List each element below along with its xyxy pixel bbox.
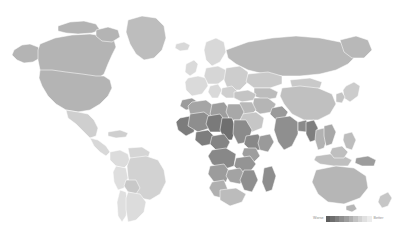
region-australia[interactable]: [312, 166, 368, 204]
region-india[interactable]: [274, 116, 298, 150]
region-papua-new-guinea[interactable]: [355, 156, 376, 166]
region-china[interactable]: [280, 86, 336, 120]
legend-swatch-9: [367, 216, 372, 222]
world-choropleth-figure: Worse Better: [0, 0, 410, 237]
region-new-zealand[interactable]: [378, 192, 392, 208]
region-turkey[interactable]: [234, 90, 256, 102]
legend-color-ramp: [326, 216, 372, 222]
region-tasmania[interactable]: [346, 204, 357, 212]
map-legend: Worse Better: [313, 214, 383, 224]
region-greenland[interactable]: [126, 16, 166, 60]
region-united-states[interactable]: [39, 70, 112, 112]
region-mexico[interactable]: [66, 110, 98, 138]
world-map[interactable]: [0, 0, 410, 237]
region-vietnam[interactable]: [324, 124, 336, 146]
region-cuba-caribbean[interactable]: [108, 130, 128, 138]
region-scandinavia[interactable]: [204, 38, 226, 66]
region-canada-arctic-islands[interactable]: [58, 21, 100, 34]
legend-low-label: Worse: [313, 217, 324, 221]
region-mozambique[interactable]: [240, 170, 258, 192]
region-alaska[interactable]: [12, 44, 42, 63]
region-central-america[interactable]: [90, 138, 110, 156]
region-iceland[interactable]: [175, 42, 190, 51]
region-philippines[interactable]: [343, 132, 356, 150]
region-madagascar[interactable]: [262, 166, 276, 192]
region-borneo[interactable]: [330, 146, 348, 158]
region-egypt[interactable]: [226, 104, 244, 120]
region-kazakhstan[interactable]: [246, 72, 282, 88]
region-south-africa[interactable]: [220, 188, 246, 206]
region-japan[interactable]: [343, 82, 360, 102]
region-uk-ireland[interactable]: [185, 60, 198, 76]
region-italy[interactable]: [208, 84, 222, 98]
region-somalia[interactable]: [258, 134, 274, 152]
region-germany-central-europe[interactable]: [204, 66, 226, 84]
region-france-iberia[interactable]: [185, 76, 208, 96]
region-eastern-europe[interactable]: [224, 66, 248, 90]
legend-high-label: Better: [374, 217, 384, 221]
